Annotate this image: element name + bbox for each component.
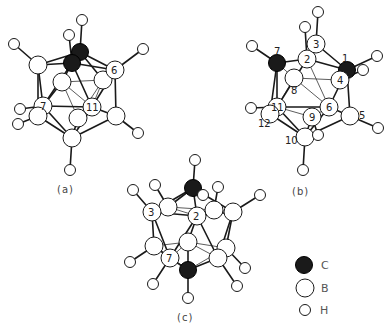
boron-atom: [63, 129, 81, 147]
caption-a: (a): [57, 184, 74, 195]
atom-label-b-2: 2: [304, 54, 310, 65]
hydrogen-atom: [255, 190, 266, 201]
hydrogen-atom: [150, 180, 161, 191]
boron-atom: [69, 109, 87, 127]
hydrogen-atom: [313, 130, 324, 141]
hydrogen-atom: [198, 190, 209, 201]
atom-label-b-12: 12: [258, 118, 271, 129]
hydrogen-atom: [13, 119, 24, 130]
molecule-a: [9, 15, 149, 176]
hydrogen-atom: [358, 65, 369, 76]
hydrogen-atom: [133, 128, 144, 139]
boron-atom: [224, 203, 242, 221]
atom-label-b-7: 7: [274, 46, 280, 57]
hydrogen-atom: [240, 263, 251, 274]
carbon-atom: [64, 55, 81, 72]
legend-label-hydrogen: H: [320, 304, 328, 317]
hydrogen-atom: [190, 155, 201, 166]
carbon-atom: [180, 262, 197, 279]
caption-b: (b): [292, 186, 309, 197]
hydrogen-atom: [64, 30, 75, 41]
hydrogen-atom: [313, 7, 324, 18]
legend-carbon-icon: [296, 257, 313, 274]
hydrogen-atom: [128, 185, 139, 196]
atom-label-b-4: 4: [337, 75, 343, 86]
hydrogen-atom: [125, 257, 136, 268]
hydrogen-atom: [138, 44, 149, 55]
hydrogen-atom: [373, 123, 384, 134]
hydrogen-atom: [298, 165, 309, 176]
boron-atom: [296, 128, 314, 146]
atom-label-b-1: 1: [342, 53, 348, 64]
atom-label-c-3: 3: [148, 207, 154, 218]
boron-atom: [53, 73, 71, 91]
hydrogen-atom: [300, 22, 311, 33]
hydrogen-atom: [77, 15, 88, 26]
legend: C B H: [296, 257, 330, 318]
atom-label-b-10: 10: [285, 135, 298, 146]
boron-atom: [107, 107, 125, 125]
atom-label-b-8: 8: [291, 85, 297, 96]
carbon-atom: [269, 55, 286, 72]
molecule-c: [125, 155, 266, 304]
hydrogen-atom: [65, 165, 76, 176]
legend-label-boron: B: [321, 282, 329, 295]
atom-label-b-3: 3: [313, 39, 319, 50]
atom-label-c-2: 2: [193, 211, 199, 222]
caption-c: (c): [177, 312, 193, 323]
boron-atom: [209, 249, 227, 267]
legend-label-carbon: C: [321, 259, 329, 272]
carborane-figure: (a) (b) (c) C B H 6711123456789101112237: [0, 0, 391, 328]
hydrogen-atom: [246, 103, 257, 114]
hydrogen-atom: [9, 39, 20, 50]
hydrogen-atom: [183, 293, 194, 304]
hydrogen-atom: [372, 51, 383, 62]
legend-boron-icon: [296, 279, 314, 297]
boron-atom: [179, 233, 197, 251]
atom-label-b-9: 9: [309, 112, 315, 123]
boron-atom: [159, 198, 177, 216]
molecule-b: [246, 7, 384, 176]
hydrogen-atom: [15, 104, 26, 115]
atom-label-b-11: 11: [271, 102, 284, 113]
hydrogen-atom: [247, 41, 258, 52]
atom-label-a-6: 6: [111, 65, 117, 76]
atom-label-a-11: 11: [86, 102, 99, 113]
hydrogen-atom: [232, 281, 243, 292]
boron-atom: [29, 56, 47, 74]
atom-label-b-5: 5: [359, 110, 365, 121]
hydrogen-atom: [213, 182, 224, 193]
atom-label-c-7: 7: [166, 253, 172, 264]
legend-hydrogen-icon: [300, 305, 311, 316]
atom-label-a-7: 7: [40, 101, 46, 112]
boron-atom: [341, 107, 359, 125]
boron-atom: [145, 237, 163, 255]
hydrogen-atom: [148, 279, 159, 290]
atom-label-b-6: 6: [326, 102, 332, 113]
boron-atom: [205, 201, 223, 219]
